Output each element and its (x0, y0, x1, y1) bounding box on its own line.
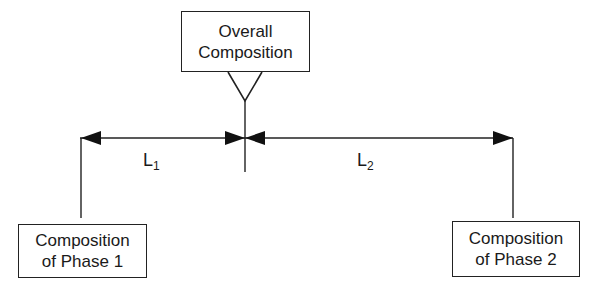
arrow-left-l1-icon (81, 131, 101, 145)
segment-l1-label: L1 (143, 150, 160, 173)
arrow-right-l1-icon (225, 131, 245, 145)
phase1-line1: Composition (35, 230, 130, 251)
segment-l2-label: L2 (357, 150, 374, 173)
phase1-composition-box: Composition of Phase 1 (18, 224, 147, 278)
phase2-line2: of Phase 2 (475, 249, 556, 270)
pointer-triangle (228, 72, 262, 101)
overall-composition-box: Overall Composition (181, 11, 310, 72)
phase1-line2: of Phase 1 (42, 251, 123, 272)
phase2-line1: Composition (469, 228, 564, 249)
overall-composition-line1: Overall (219, 21, 273, 42)
arrow-right-l2-icon (493, 131, 513, 145)
arrow-left-l2-icon (245, 131, 265, 145)
phase2-composition-box: Composition of Phase 2 (452, 221, 580, 277)
overall-composition-line2: Composition (198, 42, 293, 63)
